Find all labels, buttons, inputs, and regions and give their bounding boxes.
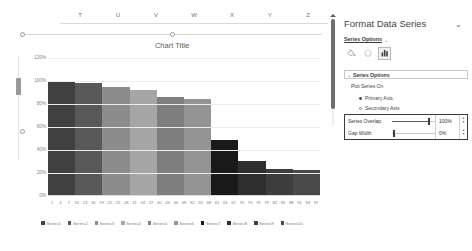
pane-title: Format Data Series <box>344 18 444 31</box>
x-tick-label: 10 <box>73 198 81 207</box>
gap-width-value[interactable]: 0% <box>435 127 459 139</box>
worksheet-vertical-scrollbar[interactable] <box>16 56 21 160</box>
x-tick-label: 94 <box>304 198 312 207</box>
legend-swatch <box>121 221 125 225</box>
bar-series6[interactable] <box>184 99 211 195</box>
y-tick-label: 60% <box>22 123 46 131</box>
chart-title[interactable]: Chart Title <box>22 41 322 53</box>
column-header-w[interactable]: W <box>187 12 201 23</box>
series-overlap-label: Series Overlap <box>345 118 392 124</box>
slider-fill <box>392 121 428 122</box>
column-header-x[interactable]: X <box>225 12 239 23</box>
chart-legend[interactable]: Series1Series2Series3Series4Series5Serie… <box>22 218 322 228</box>
chevron-down-icon[interactable]: ⌄ <box>455 20 462 30</box>
x-tick-label: 43 <box>164 198 172 207</box>
series-options-icon[interactable] <box>378 47 391 60</box>
x-tick-label: 97 <box>312 198 320 207</box>
scrollbar-thumb[interactable] <box>16 78 21 95</box>
chevron-down-icon[interactable]: ⌄ <box>384 37 388 43</box>
series-options-section-header[interactable]: ⌄ Series Options <box>344 70 468 79</box>
scroll-up-arrow-icon[interactable] <box>330 14 336 17</box>
legend-swatch <box>227 221 231 225</box>
bar-series2[interactable] <box>75 83 102 195</box>
slider-track <box>392 133 435 134</box>
legend-item-series2[interactable]: Series2 <box>68 221 88 226</box>
legend-item-series7[interactable]: Series7 <box>201 221 221 226</box>
y-tick-label: 80% <box>22 100 46 108</box>
bar-series3[interactable] <box>102 87 129 195</box>
legend-item-series5[interactable]: Series5 <box>148 221 168 226</box>
legend-item-series9[interactable]: Series9 <box>254 221 274 226</box>
slider-knob[interactable] <box>393 130 395 137</box>
legend-item-series6[interactable]: Series6 <box>174 221 194 226</box>
slider-knob[interactable] <box>428 118 430 125</box>
chevron-down-icon: ⌄ <box>347 72 351 78</box>
bar-series1[interactable] <box>48 81 75 195</box>
x-tick-label: 7 <box>65 198 73 207</box>
legend-item-series3[interactable]: Series3 <box>95 221 115 226</box>
tab-series-options[interactable]: Series Options <box>344 36 382 44</box>
legend-swatch <box>95 221 99 225</box>
gap-width-stepper[interactable]: ▲ ▼ <box>459 127 467 139</box>
x-tick-label: 67 <box>230 198 238 207</box>
gridline <box>48 104 320 105</box>
radio-primary-axis[interactable]: Primary Axis <box>359 94 393 102</box>
bar-series7[interactable] <box>211 140 238 195</box>
legend-label: Series1 <box>46 221 61 226</box>
x-tick-label: 37 <box>147 198 155 207</box>
chart-resize-handle-top-center[interactable] <box>170 32 175 37</box>
column-header-z[interactable]: Z <box>301 12 315 23</box>
radio-indicator <box>359 97 362 100</box>
x-tick-label: 91 <box>296 198 304 207</box>
y-axis[interactable]: 120%100%80%60%40%20%0% <box>22 58 48 196</box>
column-header-y[interactable]: Y <box>263 12 277 23</box>
legend-swatch <box>281 221 285 225</box>
x-tick-label: 52 <box>188 198 196 207</box>
x-tick-label: 79 <box>263 198 271 207</box>
workbook-vertical-scrollbar[interactable] <box>330 14 336 126</box>
stepper-down-icon[interactable]: ▼ <box>462 121 465 125</box>
bar-series4[interactable] <box>130 90 157 195</box>
series-overlap-value[interactable]: 100% <box>435 115 459 127</box>
chart-plot-wrapper: 120%100%80%60%40%20%0% 14710131619222528… <box>22 58 322 210</box>
y-tick-label: 0% <box>22 192 46 200</box>
scrollbar-thumb[interactable] <box>331 19 335 109</box>
gridline <box>48 81 320 82</box>
legend-item-series10[interactable]: Series10 <box>281 221 303 226</box>
chart-resize-handle-top-left[interactable] <box>20 32 25 37</box>
x-tick-label: 73 <box>246 198 254 207</box>
x-tick-label: 49 <box>180 198 188 207</box>
radio-secondary-axis[interactable]: Secondary Axis <box>359 104 399 112</box>
column-header-v[interactable]: V <box>149 12 163 23</box>
gap-width-slider[interactable] <box>392 127 435 139</box>
legend-swatch <box>174 221 178 225</box>
pane-icon-row <box>344 46 468 60</box>
gridline <box>48 150 320 151</box>
bar-series5[interactable] <box>157 97 184 195</box>
legend-item-series8[interactable]: Series8 <box>227 221 247 226</box>
x-tick-label: 1 <box>48 198 56 207</box>
radio-label: Primary Axis <box>365 95 393 101</box>
legend-item-series4[interactable]: Series4 <box>121 221 141 226</box>
stepper-down-icon[interactable]: ▼ <box>462 133 465 137</box>
series-overlap-stepper[interactable]: ▲ ▼ <box>459 115 467 127</box>
fill-and-line-icon[interactable] <box>344 47 357 60</box>
chart-object[interactable]: Chart Title 120%100%80%60%40%20%0% 14710… <box>22 34 322 230</box>
x-tick-label: 40 <box>155 198 163 207</box>
column-header-t[interactable]: T <box>73 12 87 23</box>
legend-label: Series10 <box>286 221 303 226</box>
x-tick-label: 82 <box>271 198 279 207</box>
x-tick-label: 61 <box>213 198 221 207</box>
legend-label: Series5 <box>153 221 168 226</box>
series-overlap-slider[interactable] <box>392 115 435 127</box>
legend-item-series1[interactable]: Series1 <box>41 221 61 226</box>
legend-label: Series7 <box>206 221 221 226</box>
radio-label: Secondary Axis <box>365 105 399 111</box>
x-tick-label: 31 <box>131 198 139 207</box>
gap-width-label: Gap Width <box>345 130 392 136</box>
column-header-u[interactable]: U <box>111 12 125 23</box>
effects-icon[interactable] <box>361 47 374 60</box>
bar-series8[interactable] <box>238 161 265 195</box>
x-axis[interactable]: 1471013161922252831343740434649525558616… <box>48 198 320 207</box>
plot-area[interactable] <box>48 58 320 196</box>
